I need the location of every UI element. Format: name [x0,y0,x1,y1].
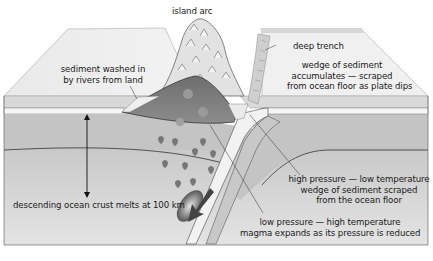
label-island-arc: island arc [172,6,213,17]
label-low-pressure: low pressure — high temperature magma ex… [240,217,420,238]
label-line: low pressure — high temperature [240,217,420,228]
label-line: wedge of sediment [287,60,397,71]
label-line: magma expands as its pressure is reduced [240,228,420,239]
label-line: accumulates — scraped [287,71,397,82]
label-line: by rivers from land [57,75,149,86]
label-line: sediment washed in [57,64,149,75]
label-line: from the ocean floor [284,195,433,206]
label-line: high pressure — low temperature [284,174,433,185]
label-high-pressure: high pressure — low temperature wedge of… [284,174,433,206]
label-wedge-accumulates: wedge of sediment accumulates — scraped … [287,60,397,92]
label-line: from ocean floor as plate dips [287,81,397,92]
label-descending-crust: descending ocean crust melts at 100 km [13,200,185,211]
label-line: wedge of sediment scraped [284,185,433,196]
label-deep-trench: deep trench [293,41,344,52]
label-sediment-washed: sediment washed in by rivers from land [57,64,149,85]
